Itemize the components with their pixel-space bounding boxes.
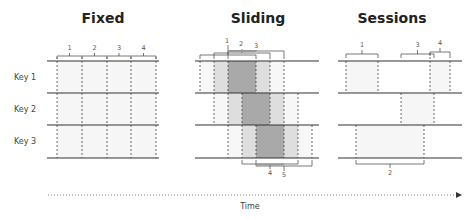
fixed-window-3-label: 3 [117, 44, 121, 52]
key-2-label: Key 2 [14, 105, 36, 114]
sessions-title: Sessions [358, 10, 427, 26]
session-1-label: 1 [360, 41, 364, 49]
time-axis-label: Time [239, 202, 260, 211]
fixed-window-1-label: 1 [67, 44, 71, 52]
sessions-panel: 1 2 3 4 [338, 39, 462, 177]
session-3-label: 3 [415, 41, 419, 49]
key-1-label: Key 1 [14, 73, 36, 82]
sliding-panel: 1 2 3 4 5 [195, 37, 319, 179]
time-axis: Time [48, 192, 462, 211]
fixed-title: Fixed [82, 10, 125, 26]
fixed-window-4-label: 4 [141, 44, 145, 52]
fixed-panel: 1 2 3 4 [47, 44, 159, 158]
sliding-title: Sliding [231, 10, 286, 26]
sliding-window-5-label: 5 [282, 171, 286, 179]
fixed-window-2-label: 2 [92, 44, 96, 52]
sliding-window-3-label: 3 [254, 42, 258, 50]
session-4-label: 4 [438, 39, 442, 47]
sliding-window-2-label: 2 [239, 40, 243, 48]
key-3-label: Key 3 [14, 137, 36, 146]
session-2-label: 2 [388, 169, 392, 177]
sliding-window-4-label: 4 [268, 169, 272, 177]
windowing-diagram: Fixed Sliding Sessions Key 1 Key 2 Key 3 [0, 0, 472, 219]
arrow-right-icon [456, 192, 462, 198]
sliding-window-1-label: 1 [225, 37, 229, 45]
